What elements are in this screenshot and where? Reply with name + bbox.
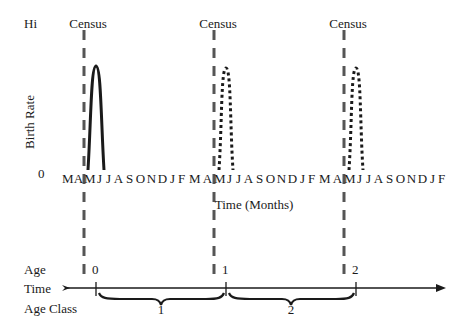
month-label: N bbox=[146, 171, 157, 187]
month-label: S bbox=[124, 171, 135, 187]
month-label: A bbox=[202, 171, 213, 187]
age-row-label: Age bbox=[24, 263, 46, 276]
census-label-2: Census bbox=[199, 17, 237, 30]
month-label: O bbox=[135, 171, 146, 187]
age-class-value-1: 1 bbox=[158, 303, 165, 316]
month-label: M bbox=[62, 171, 73, 187]
y-axis-label: Birth Rate bbox=[22, 95, 38, 149]
month-label: N bbox=[276, 171, 287, 187]
month-label: N bbox=[406, 171, 417, 187]
month-label: F bbox=[436, 171, 447, 187]
time-axis-arrowhead-icon bbox=[436, 284, 446, 292]
time-axis-tail-icon bbox=[62, 285, 70, 291]
time-row-label: Time bbox=[24, 282, 51, 295]
month-label: A bbox=[243, 171, 254, 187]
month-label: S bbox=[384, 171, 395, 187]
age-class-row-label: Age Class bbox=[24, 302, 77, 315]
census-label-3: Census bbox=[329, 17, 367, 30]
month-label: F bbox=[176, 171, 187, 187]
month-label: A bbox=[73, 171, 84, 187]
month-label: A bbox=[332, 171, 343, 187]
month-label: F bbox=[306, 171, 317, 187]
month-label: M bbox=[319, 171, 330, 187]
birth-pulse-dotted-2 bbox=[349, 68, 363, 170]
month-label: A bbox=[373, 171, 384, 187]
month-label: S bbox=[254, 171, 265, 187]
age-value-1: 1 bbox=[222, 263, 229, 276]
month-label: O bbox=[395, 171, 406, 187]
y-axis-hi-label: Hi bbox=[24, 17, 37, 30]
month-label: M bbox=[189, 171, 200, 187]
age-value-0: 0 bbox=[92, 263, 99, 276]
x-axis-label: Time (Months) bbox=[215, 198, 294, 211]
birth-pulse-dotted-1 bbox=[219, 68, 233, 170]
age-ticks bbox=[96, 282, 356, 296]
census-label-1: Census bbox=[69, 17, 107, 30]
y-axis-zero-label: 0 bbox=[38, 167, 45, 180]
month-label: A bbox=[113, 171, 124, 187]
month-label: O bbox=[265, 171, 276, 187]
age-value-2: 2 bbox=[352, 263, 359, 276]
birth-pulse-solid bbox=[88, 66, 104, 170]
age-class-value-2: 2 bbox=[288, 303, 295, 316]
census-lines bbox=[84, 30, 344, 282]
birth-pulse-census-diagram: Hi Birth Rate 0 Census Census Census M A… bbox=[0, 0, 466, 328]
diagram-graphics bbox=[0, 0, 466, 328]
